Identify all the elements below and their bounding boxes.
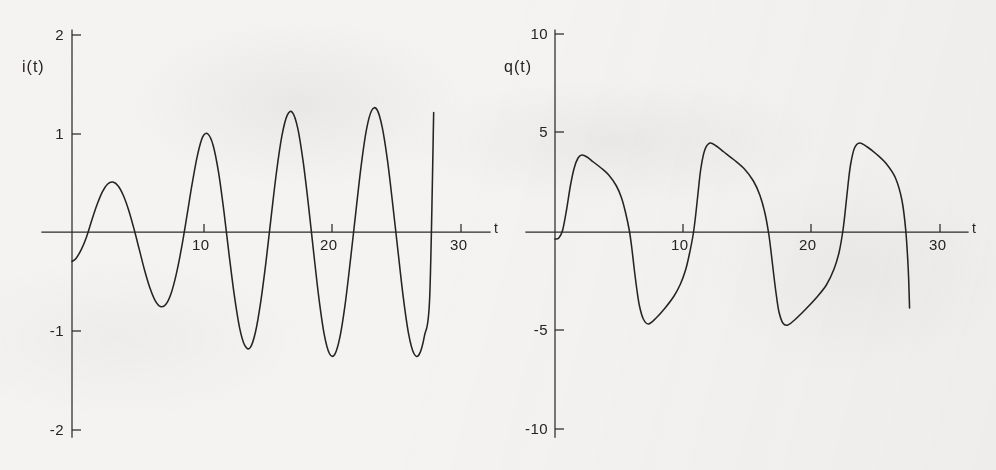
- charge-plot-svg: [498, 0, 996, 470]
- current-x-tick-label-30: 30: [450, 236, 468, 253]
- current-y-tick-label-2: 2: [40, 26, 64, 43]
- charge-x-tick-label-10: 10: [671, 236, 689, 253]
- panel-charge: q(t) t 10 5 -5 -10 10 20 30: [498, 0, 996, 470]
- current-plot-svg: [0, 0, 498, 470]
- current-y-tick-label-neg1: -1: [36, 322, 64, 339]
- current-axis-variable-label: i(t): [22, 58, 45, 76]
- figure-root: i(t) t 2 1 -1 -2 10 20 30 q(t) t 10 5 -5…: [0, 0, 996, 470]
- charge-y-tick-label-neg5: -5: [512, 321, 548, 338]
- charge-curve: [555, 143, 910, 325]
- charge-x-tick-label-20: 20: [799, 236, 817, 253]
- current-y-tick-label-neg2: -2: [36, 421, 64, 438]
- charge-y-tick-label-5: 5: [516, 123, 548, 140]
- current-x-tick-label-10: 10: [192, 236, 210, 253]
- panel-current: i(t) t 2 1 -1 -2 10 20 30: [0, 0, 498, 470]
- current-y-tick-label-1: 1: [40, 125, 64, 142]
- charge-x-axis-name: t: [972, 220, 976, 236]
- charge-y-tick-label-neg10: -10: [508, 420, 548, 437]
- charge-x-tick-label-30: 30: [929, 236, 947, 253]
- charge-axis-variable-label: q(t): [504, 58, 532, 76]
- current-x-tick-label-20: 20: [320, 236, 338, 253]
- charge-y-tick-label-10: 10: [516, 25, 548, 42]
